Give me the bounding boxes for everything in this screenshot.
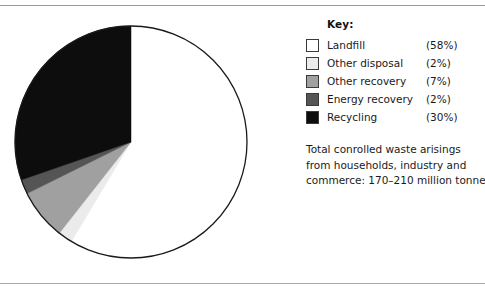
legend-item-energy-recovery: Energy recovery (2%) bbox=[306, 90, 478, 108]
pie-slice-group bbox=[15, 26, 247, 258]
caption-line-2: from households, industry and bbox=[306, 158, 482, 174]
legend-label-landfill: Landfill bbox=[327, 39, 426, 51]
divider-top bbox=[0, 5, 485, 6]
legend-percent-landfill: (58%) bbox=[426, 39, 458, 51]
legend-label-other-disposal: Other disposal bbox=[327, 57, 426, 69]
figure-container: Key: Landfill (58%) Other disposal (2%) … bbox=[0, 0, 485, 293]
legend-percent-other-disposal: (2%) bbox=[426, 57, 451, 69]
legend-label-other-recovery: Other recovery bbox=[327, 75, 426, 87]
legend-swatch-other-disposal bbox=[306, 57, 319, 70]
legend-percent-recycling: (30%) bbox=[426, 111, 458, 123]
pie-chart bbox=[14, 25, 248, 259]
legend-title: Key: bbox=[327, 18, 478, 30]
legend-swatch-energy-recovery bbox=[306, 93, 319, 106]
legend-percent-energy-recovery: (2%) bbox=[426, 93, 451, 105]
divider-bottom bbox=[0, 283, 485, 284]
legend: Key: Landfill (58%) Other disposal (2%) … bbox=[306, 18, 478, 126]
legend-item-other-disposal: Other disposal (2%) bbox=[306, 54, 478, 72]
legend-swatch-other-recovery bbox=[306, 75, 319, 88]
legend-item-other-recovery: Other recovery (7%) bbox=[306, 72, 478, 90]
legend-percent-other-recovery: (7%) bbox=[426, 75, 451, 87]
legend-swatch-recycling bbox=[306, 111, 319, 124]
legend-item-recycling: Recycling (30%) bbox=[306, 108, 478, 126]
legend-swatch-landfill bbox=[306, 39, 319, 52]
caption-line-1: Total conrolled waste arisings bbox=[306, 142, 482, 158]
legend-label-energy-recovery: Energy recovery bbox=[327, 93, 426, 105]
pie-chart-svg bbox=[14, 25, 248, 259]
chart-caption: Total conrolled waste arisings from hous… bbox=[306, 142, 482, 189]
legend-item-landfill: Landfill (58%) bbox=[306, 36, 478, 54]
caption-line-3: commerce: 170–210 million tonnes bbox=[306, 173, 482, 189]
legend-label-recycling: Recycling bbox=[327, 111, 426, 123]
